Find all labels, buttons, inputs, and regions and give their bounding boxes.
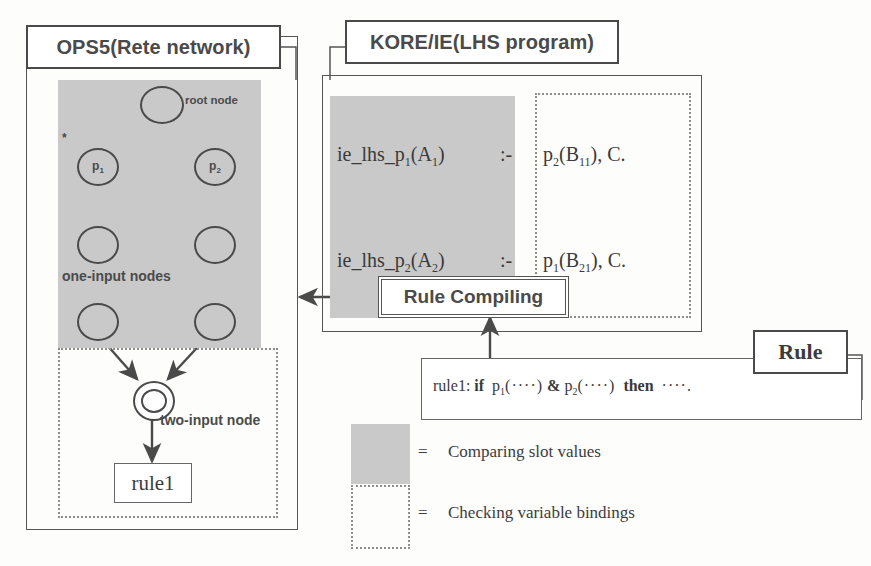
kore-title-box: KORE/IE(LHS program) (345, 20, 619, 64)
two-input-node-label: two-input node (160, 412, 260, 428)
ops5-title-label: OPS5(Rete network) (56, 36, 250, 59)
one-input-nodes-label: one-input nodes (62, 268, 171, 284)
legend-separator-1: = (418, 442, 427, 462)
root-node (140, 86, 184, 124)
node-p1-label: p1 (92, 159, 104, 175)
asterisk-marker: * (62, 131, 67, 145)
legend-label-1: Comparing slot values (448, 442, 601, 462)
rete-rule1-label: rule1 (131, 471, 174, 496)
legend-swatch-gray (351, 424, 410, 484)
one-input-node-left-lower (77, 303, 119, 341)
lhs-line-2-head: ie_lhs_p2(A2) (337, 249, 445, 276)
lhs-line-1-head: ie_lhs_p1(A1) (337, 143, 445, 170)
lhs-line-1-neck: :- (500, 143, 512, 166)
node-p1: p1 (77, 148, 119, 186)
legend-separator-2: = (418, 503, 427, 523)
two-input-node-inner-ring (141, 389, 167, 413)
root-node-label: root node (185, 94, 238, 106)
one-input-node-right-upper (194, 226, 236, 264)
figure-canvas: OPS5(Rete network) root node p1 * p2 one… (0, 0, 871, 566)
legend-label-2: Checking variable bindings (448, 503, 635, 523)
lhs-line-2-neck: :- (500, 249, 512, 272)
rule-compiling-label: Rule Compiling (404, 286, 543, 308)
rete-rule1-box: rule1 (114, 463, 192, 503)
ops5-title-box: OPS5(Rete network) (26, 25, 281, 69)
node-p2-label: p2 (209, 159, 221, 175)
rule-title-box: Rule (753, 330, 848, 374)
rule-title-label: Rule (778, 339, 822, 365)
rule-source-text: rule1: if p1(····) & p2(····) then ····. (433, 377, 692, 397)
one-input-node-left-upper (77, 226, 119, 264)
lhs-line-2-body: p1(B21), C. (543, 249, 626, 276)
legend-swatch-dotted (351, 485, 410, 549)
node-p2: p2 (194, 148, 236, 186)
kore-title-label: KORE/IE(LHS program) (370, 31, 594, 54)
one-input-node-right-lower (194, 303, 236, 341)
rule-compiling-box[interactable]: Rule Compiling (378, 276, 569, 318)
lhs-line-1-body: p2(B11), C. (543, 143, 626, 170)
